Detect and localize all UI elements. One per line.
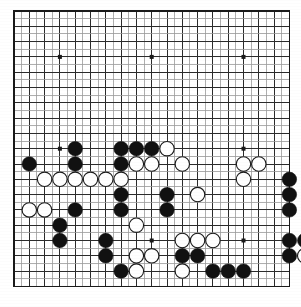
- black-stone[interactable]: [114, 187, 128, 201]
- white-stone[interactable]: [37, 203, 51, 217]
- white-stone[interactable]: [190, 187, 204, 201]
- star-point: [150, 55, 154, 59]
- black-stone[interactable]: [68, 142, 82, 156]
- black-stone[interactable]: [99, 233, 113, 247]
- go-board-svg[interactable]: [0, 0, 301, 307]
- black-stone[interactable]: [22, 157, 36, 171]
- black-stone[interactable]: [282, 249, 296, 263]
- black-stone[interactable]: [68, 157, 82, 171]
- black-stone[interactable]: [129, 142, 143, 156]
- black-stone[interactable]: [145, 142, 159, 156]
- black-stone[interactable]: [282, 203, 296, 217]
- black-stone[interactable]: [190, 249, 204, 263]
- white-stone[interactable]: [175, 157, 189, 171]
- white-stone[interactable]: [236, 172, 250, 186]
- white-stone[interactable]: [190, 233, 204, 247]
- black-stone[interactable]: [99, 249, 113, 263]
- black-stone[interactable]: [53, 218, 67, 232]
- black-stone[interactable]: [221, 264, 235, 278]
- star-point: [242, 239, 246, 243]
- white-stone[interactable]: [22, 203, 36, 217]
- black-stone[interactable]: [282, 187, 296, 201]
- white-stone[interactable]: [206, 233, 220, 247]
- star-point: [58, 147, 62, 151]
- black-stone[interactable]: [236, 264, 250, 278]
- black-stone[interactable]: [114, 264, 128, 278]
- white-stone[interactable]: [129, 264, 143, 278]
- black-stone[interactable]: [160, 187, 174, 201]
- black-stone[interactable]: [282, 233, 296, 247]
- black-stone[interactable]: [114, 157, 128, 171]
- star-point: [150, 239, 154, 243]
- black-stone[interactable]: [114, 203, 128, 217]
- white-stone[interactable]: [129, 157, 143, 171]
- white-stone[interactable]: [114, 172, 128, 186]
- white-stone[interactable]: [53, 172, 67, 186]
- white-stone[interactable]: [252, 157, 266, 171]
- black-stone[interactable]: [53, 233, 67, 247]
- white-stone[interactable]: [175, 233, 189, 247]
- white-stone[interactable]: [129, 218, 143, 232]
- white-stone[interactable]: [68, 172, 82, 186]
- black-stone[interactable]: [206, 264, 220, 278]
- black-stone[interactable]: [282, 172, 296, 186]
- black-stone[interactable]: [175, 249, 189, 263]
- white-stone[interactable]: [145, 157, 159, 171]
- black-stone[interactable]: [68, 203, 82, 217]
- go-board-container[interactable]: [0, 0, 301, 307]
- star-point: [242, 147, 246, 151]
- white-stone[interactable]: [99, 172, 113, 186]
- white-stone[interactable]: [145, 249, 159, 263]
- white-stone[interactable]: [37, 172, 51, 186]
- white-stone[interactable]: [175, 264, 189, 278]
- white-stone[interactable]: [83, 172, 97, 186]
- white-stone[interactable]: [160, 142, 174, 156]
- black-stone[interactable]: [114, 142, 128, 156]
- black-stone[interactable]: [160, 203, 174, 217]
- star-point: [58, 55, 62, 59]
- white-stone[interactable]: [236, 157, 250, 171]
- white-stone[interactable]: [129, 249, 143, 263]
- star-point: [242, 55, 246, 59]
